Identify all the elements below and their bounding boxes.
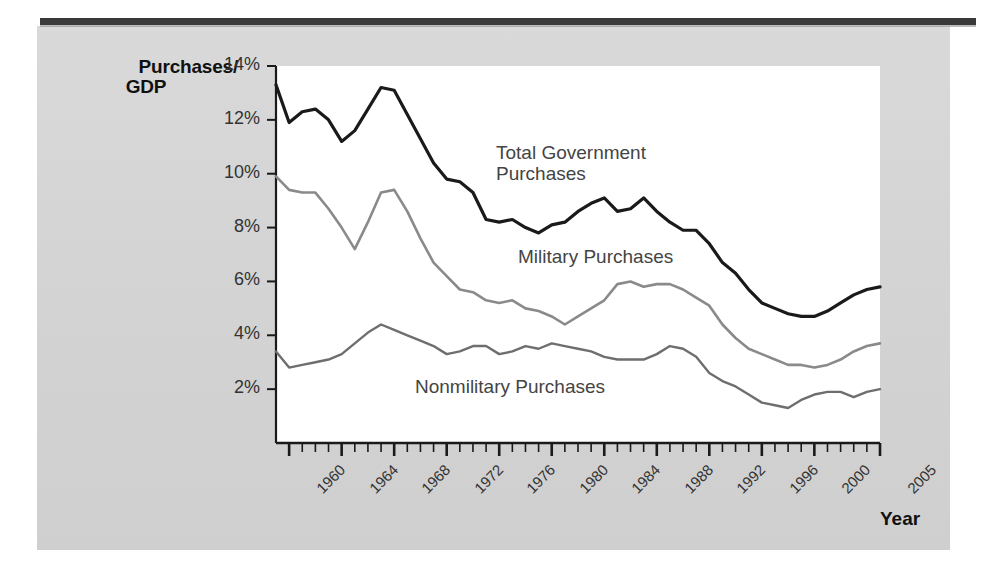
- series-line-nonmilitary-purchases: [276, 325, 880, 408]
- figure-root: Purchases/ GDP Year 14%12%10%8%6%4%2% 19…: [0, 0, 981, 574]
- series-line-military-purchases: [276, 176, 880, 367]
- chart-canvas: [0, 0, 981, 574]
- series-line-total-government-purchases: [276, 85, 880, 317]
- series-group: [276, 85, 880, 408]
